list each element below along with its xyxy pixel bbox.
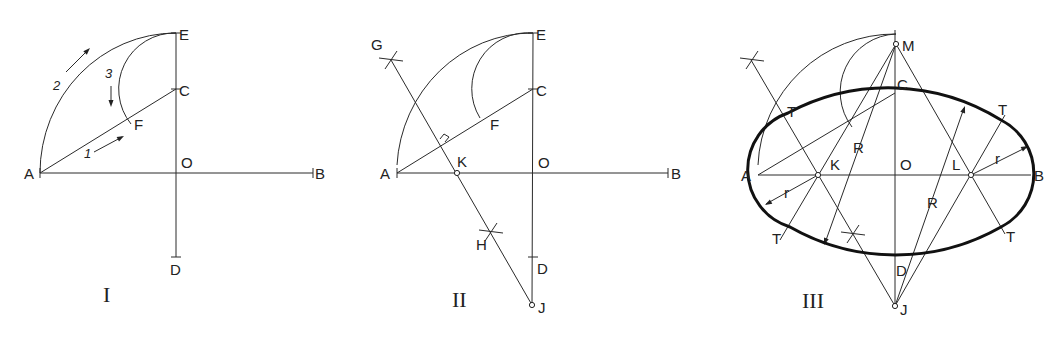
point-j — [529, 302, 534, 307]
point-label-f: F — [490, 116, 499, 133]
point-label-e: E — [179, 26, 189, 43]
arrow-head-icon — [765, 199, 772, 205]
point-label-r: R — [853, 139, 864, 156]
point-label-l: L — [952, 156, 960, 173]
point-label-m: M — [902, 37, 915, 54]
step-label: 2 — [52, 78, 61, 93]
point-j — [892, 303, 897, 308]
arc-ef — [472, 33, 533, 118]
point-l — [968, 172, 973, 177]
arc-ae — [758, 34, 896, 165]
point-label-b: B — [671, 165, 681, 182]
panel-ii: AKOBECFDJHGII — [371, 26, 681, 316]
perpendicular-bisector — [391, 60, 532, 305]
diagram-canvas: 123ABOECDFI AKOBECFDJHGII AKOLBMCDJRRrrT… — [0, 0, 1061, 342]
arrow-head-icon — [960, 106, 965, 113]
point-label-b: B — [1034, 167, 1044, 184]
point-label-c: C — [179, 82, 190, 99]
point-label-t: T — [998, 101, 1007, 118]
point-label-r: R — [927, 194, 938, 211]
point-label-a: A — [380, 165, 390, 182]
point-k — [815, 172, 820, 177]
tangent-line-m-k — [780, 44, 896, 240]
point-label-e: E — [536, 26, 546, 43]
point-label-t: T — [772, 230, 781, 247]
point-label-j: J — [538, 299, 546, 316]
arc-ef — [840, 34, 896, 127]
point-label-d: D — [896, 262, 907, 279]
point-label-t: T — [787, 103, 796, 120]
step-label: 1 — [84, 146, 91, 161]
tangent-line-j-l — [895, 115, 1005, 306]
point-label-r: r — [784, 184, 789, 201]
line-ac — [40, 89, 176, 173]
point-label-c: C — [536, 82, 547, 99]
point-label-d: D — [170, 261, 181, 278]
arc-ae — [397, 33, 533, 165]
arrow-head-icon — [109, 100, 114, 107]
point-label-r: r — [995, 150, 1000, 167]
panel-numeral: I — [103, 282, 110, 307]
point-label-b: B — [315, 165, 325, 182]
point-label-c: C — [897, 76, 908, 93]
point-label-d: D — [537, 260, 548, 277]
arc-ae — [40, 33, 176, 173]
arrow-head-icon — [117, 136, 124, 142]
point-label-a: A — [24, 165, 34, 182]
panel-iii: AKOLBMCDJRRrrTTTTIII — [740, 30, 1044, 318]
point-label-f: F — [134, 116, 143, 133]
point-label-o: O — [900, 156, 912, 173]
point-label-o: O — [538, 154, 550, 171]
point-label-o: O — [181, 154, 193, 171]
point-label-g: G — [371, 36, 383, 53]
ellipse-construction-figure: 123ABOECDFI AKOBECFDJHGII AKOLBMCDJRRrrT… — [0, 0, 1061, 342]
point-m — [893, 41, 898, 46]
panel-numeral: III — [802, 288, 824, 313]
point-label-j: J — [900, 301, 908, 318]
tangent-line-m-l — [896, 44, 1005, 234]
point-label-t: T — [1006, 228, 1015, 245]
point-label-a: A — [741, 167, 751, 184]
minor-axis-line — [532, 33, 533, 305]
point-k — [454, 170, 459, 175]
right-angle-marker — [440, 134, 449, 142]
step-label: 3 — [105, 66, 113, 81]
point-label-k: K — [830, 156, 840, 173]
panel-i: 123ABOECDFI — [24, 26, 325, 307]
panel-numeral: II — [452, 287, 467, 312]
point-label-h: H — [476, 236, 487, 253]
arc-ef — [119, 33, 176, 124]
point-label-k: K — [457, 153, 467, 170]
